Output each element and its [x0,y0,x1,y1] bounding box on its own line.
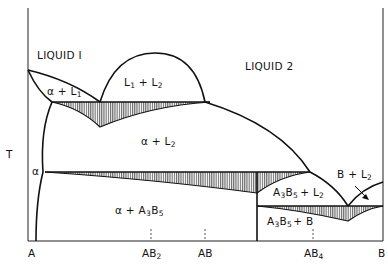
monotectic-hatch [52,102,210,127]
liquidus-alpha-l2 [205,102,310,172]
label-alpha-l1: α + L1 [47,85,82,99]
tick-ab: AB [198,247,212,259]
hatched-regions [45,102,383,221]
label-b-l2: B + L2 [337,168,372,182]
x-axis-ticks: A AB2 AB AB4 B [28,247,385,261]
label-liquid2: LIQUID 2 [245,60,294,72]
y-axis-label: T [5,148,13,160]
label-liquid1: LIQUID I [37,49,82,61]
tick-ab2: AB2 [142,247,161,261]
label-a3b5-l2: A3B5+ L2 [273,186,324,200]
composition-markers [151,229,313,240]
label-alpha-a3b5: α + A3B5 [115,204,164,218]
liquidus-b-l2 [348,182,383,206]
label-a3b5-b: A3B5+ B [267,215,313,229]
tick-a: A [28,247,36,259]
label-alpha-l2: α + L2 [141,135,176,149]
tick-b: B [378,247,385,259]
label-alpha: α [32,165,39,177]
phase-diagram: T LIQUID I LIQUID 2 α + L1 L1 + L2 α + L… [0,0,388,269]
label-l1-l2: L1 + L2 [124,76,163,90]
phase-labels: LIQUID I LIQUID 2 α + L1 L1 + L2 α + L2 … [32,49,372,229]
tick-ab4: AB4 [304,247,323,261]
